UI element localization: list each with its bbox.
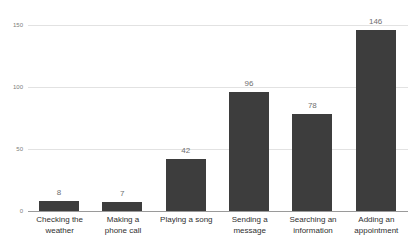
bar-slot: 42 — [155, 25, 217, 211]
category-label-line: Searching an — [280, 214, 346, 225]
category-label: Making aphone call — [90, 214, 156, 236]
category-label: Checking theweather — [27, 214, 93, 236]
bar-value-label: 96 — [218, 79, 280, 88]
bar[interactable] — [102, 202, 142, 211]
bar[interactable] — [166, 159, 206, 211]
category-label-line: message — [217, 225, 283, 236]
bar[interactable] — [292, 114, 332, 211]
bar-slot: 146 — [345, 25, 407, 211]
bar[interactable] — [356, 30, 396, 211]
bar-slot: 78 — [281, 25, 343, 211]
category-label-line: weather — [27, 225, 93, 236]
category-label-line: Making a — [90, 214, 156, 225]
bar-slot: 96 — [218, 25, 280, 211]
category-label-line: Adding an — [343, 214, 409, 225]
category-label: Adding anappointment — [343, 214, 409, 236]
ytick-label-100: 100 — [13, 84, 23, 90]
bar-slot: 8 — [28, 25, 90, 211]
category-label-line: information — [280, 225, 346, 236]
bar-chart: 050100150 87429678146 Checking theweathe… — [0, 0, 416, 248]
category-axis: Checking theweatherMaking aphone callPla… — [28, 214, 408, 248]
bar-value-label: 146 — [345, 17, 407, 26]
bar-value-label: 8 — [28, 188, 90, 197]
category-label-line: appointment — [343, 225, 409, 236]
bars-layer: 87429678146 — [28, 25, 408, 211]
bar[interactable] — [229, 92, 269, 211]
category-label-line: Sending a — [217, 214, 283, 225]
bar-value-label: 78 — [281, 101, 343, 110]
ytick-label-0: 0 — [20, 208, 23, 214]
category-label-line: phone call — [90, 225, 156, 236]
plot-area: 050100150 87429678146 — [28, 25, 408, 211]
axis-line-zero: 0 — [28, 211, 408, 212]
bar-value-label: 7 — [91, 189, 153, 198]
bar-slot: 7 — [91, 25, 153, 211]
bar-value-label: 42 — [155, 146, 217, 155]
bar[interactable] — [39, 201, 79, 211]
category-label-line: Checking the — [27, 214, 93, 225]
category-label-line: Playing a song — [153, 214, 219, 225]
category-label: Sending amessage — [217, 214, 283, 236]
ytick-label-150: 150 — [13, 22, 23, 28]
ytick-label-50: 50 — [16, 146, 23, 152]
category-label: Searching aninformation — [280, 214, 346, 236]
category-label: Playing a song — [153, 214, 219, 225]
